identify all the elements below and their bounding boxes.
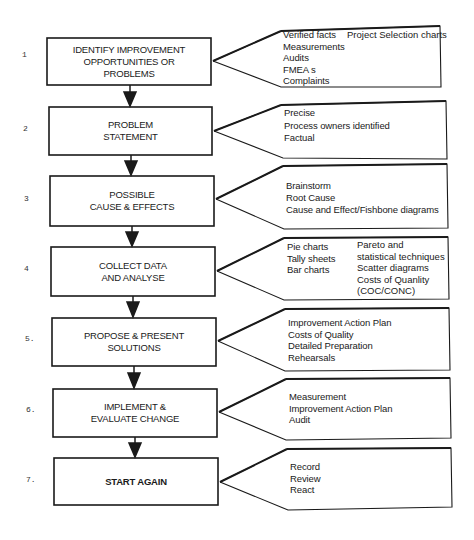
callout-4-notes-col2: Pareto and statistical techniques Scatte… [357,239,445,297]
note-item: Factual [284,132,390,145]
note-item: Tally sheets [287,253,335,265]
step-box-5: PROPOSE & PRESENT SOLUTIONS [52,318,216,366]
step-number-6: 6. [26,405,36,414]
note-item: Review [290,473,321,485]
step-number-3: 3 [24,194,29,203]
note-item: (COC/CONC) [357,285,445,297]
note-item: Pie charts [287,241,335,253]
step-2-title-line: PROBLEM [103,119,157,131]
note-item: Verified facts [283,29,345,41]
note-item: Costs of Quanlity [357,274,445,286]
note-item: Costs of Quality [288,329,391,341]
note-item: Improvement Action Plan [288,317,391,329]
step-box-7: START AGAIN [54,458,218,505]
step-3-title-line: POSSIBLE [90,189,175,201]
step-7-title-line: START AGAIN [105,476,167,488]
callout-6-notes: Measurement Improvement Action Plan Audi… [289,391,392,426]
step-1-title-line: IDENTIFY IMPROVEMENT [73,44,185,56]
step-box-6: IMPLEMENT & EVALUATE CHANGE [53,389,217,437]
step-5-title-line: PROPOSE & PRESENT [84,330,184,342]
arrow-down-icon [129,437,141,457]
note-item: Measurement [289,391,392,403]
note-item: Measurements [283,41,345,53]
step-1-title-line: OPPORTUNITIES OR [73,56,185,68]
note-item: Record [290,461,321,473]
step-4-title-line: COLLECT DATA [99,260,167,272]
callout-2-notes: Precise Process owners identified Factua… [284,107,390,145]
step-4-title-line: AND ANALYSE [99,272,167,284]
callout-1-notes: Verified facts Measurements Audits FMEA … [283,29,345,87]
step-6-title-line: IMPLEMENT & [91,401,180,413]
step-number-1: 1 [22,50,27,59]
step-2-title-line: STATEMENT [103,131,157,143]
note-item: Bar charts [287,264,335,276]
note-item: Project Selection charts [347,29,447,41]
step-6-title-line: EVALUATE CHANGE [91,413,180,425]
note-item: Cause and Effect/Fishbone diagrams [286,204,439,216]
step-number-5: 5. [25,334,35,343]
step-box-3: POSSIBLE CAUSE & EFFECTS [50,176,214,226]
step-number-2: 2 [23,124,28,133]
callout-7-frame [220,448,452,510]
arrow-down-icon [124,85,136,106]
note-item: Scatter diagrams [357,262,445,274]
callout-1-notes-col2: Project Selection charts [347,29,447,41]
note-item: Brainstorm [286,180,439,192]
note-item: Pareto and [357,239,445,251]
note-item: React [290,484,321,496]
callout-5-notes: Improvement Action Plan Costs of Quality… [288,317,391,363]
note-item: Audit [289,414,392,426]
step-number-7: 7. [26,475,36,484]
step-5-title-line: SOLUTIONS [84,342,184,354]
arrow-down-icon [125,155,137,175]
callout-3-notes: Brainstorm Root Cause Cause and Effect/F… [286,180,439,216]
arrow-down-icon [127,296,139,317]
step-3-title-line: CAUSE & EFFECTS [90,201,175,213]
note-item: Precise [284,107,390,120]
step-box-4: COLLECT DATA AND ANALYSE [51,247,215,296]
step-number-4: 4 [24,264,29,273]
note-item: Improvement Action Plan [289,403,392,415]
arrow-down-icon [126,226,138,246]
callout-4-notes: Pie charts Tally sheets Bar charts [287,241,335,276]
note-item: FMEA s [283,64,345,76]
note-item: Audits [283,52,345,64]
note-item: Process owners identified [284,120,390,133]
note-item: Complaints [283,75,345,87]
callout-7-notes: Record Review React [290,461,321,496]
note-item: statistical techniques [357,251,445,263]
note-item: Rehearsals [288,352,391,364]
note-item: Root Cause [286,192,439,204]
step-box-1: IDENTIFY IMPROVEMENT OPPORTUNITIES OR PR… [47,38,211,85]
step-box-2: PROBLEM STATEMENT [49,107,212,155]
note-item: Detailed Preparation [288,340,391,352]
step-1-title-line: PROBLEMS [73,68,185,80]
arrow-down-icon [128,366,140,388]
